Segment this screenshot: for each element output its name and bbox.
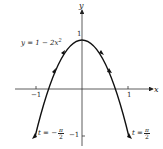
x-axis-label: x — [154, 86, 159, 94]
t-right-two: 2 — [145, 134, 149, 140]
t-right-prefix: t = — [132, 130, 143, 137]
curve-equation-exp: 2 — [58, 37, 61, 43]
curve-equation-text: y = 1 − 2x — [21, 39, 58, 47]
x-tick-label-pos1: 1 — [127, 92, 131, 99]
y-tick-label-1: 1 — [77, 31, 81, 38]
direction-arrow-icon — [52, 68, 56, 74]
t-left-two: 2 — [59, 134, 63, 140]
x-tick-label-neg1: −1 — [31, 92, 41, 99]
curve-equation: y = 1 − 2x2 — [21, 38, 62, 47]
t-left-annotation: t = − π 2 — [38, 127, 64, 140]
t-left-prefix: t = − — [38, 130, 57, 137]
y-tick-label-neg1: −1 — [69, 132, 79, 139]
t-right-annotation: t = π 2 — [132, 127, 150, 140]
y-axis-label: y — [79, 2, 84, 10]
